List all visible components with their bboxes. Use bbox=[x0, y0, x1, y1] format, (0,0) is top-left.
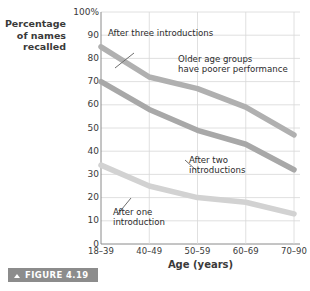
y-tick-label: 70 bbox=[61, 77, 99, 86]
annotation-after-three: After three introductions bbox=[108, 28, 213, 38]
y-tick-label: 90 bbox=[61, 31, 99, 40]
figure-caption-badge: FIGURE 4.19 bbox=[8, 268, 98, 282]
x-tick-label: 60–69 bbox=[233, 246, 259, 256]
y-tick-label: 50 bbox=[61, 124, 99, 133]
y-tick-label: 60 bbox=[61, 100, 99, 109]
y-axis-title: Percentage of names recalled bbox=[2, 18, 66, 53]
x-tick-label: 70–90 bbox=[281, 246, 307, 256]
x-tick-label: 40–49 bbox=[136, 246, 162, 256]
y-tick-label: 100% bbox=[61, 8, 99, 17]
annotation-after-two: After two introductions bbox=[189, 155, 245, 175]
y-axis-tick-labels: 100%9080706050403020100 bbox=[59, 12, 99, 244]
annotation-older-age-groups: Older age groups have poorer performance bbox=[178, 54, 288, 74]
chevron-up-icon bbox=[14, 272, 21, 279]
x-tick-label: 50–59 bbox=[185, 246, 211, 256]
y-tick-label: 10 bbox=[61, 216, 99, 225]
annotation-after-one: After one introduction bbox=[113, 207, 165, 227]
figure-caption-label: FIGURE 4.19 bbox=[25, 270, 89, 280]
y-tick-label: 30 bbox=[61, 170, 99, 179]
x-tick-label: 18–39 bbox=[88, 246, 114, 256]
x-axis-title: Age (years) bbox=[101, 259, 300, 270]
y-tick-label: 20 bbox=[61, 193, 99, 202]
y-tick-label: 40 bbox=[61, 147, 99, 156]
figure-4-19: Percentage of names recalled 100%9080706… bbox=[0, 0, 310, 291]
y-tick-label: 80 bbox=[61, 54, 99, 63]
x-axis-tick-labels: 18–3940–4950–5960–6970–90 bbox=[101, 246, 300, 260]
